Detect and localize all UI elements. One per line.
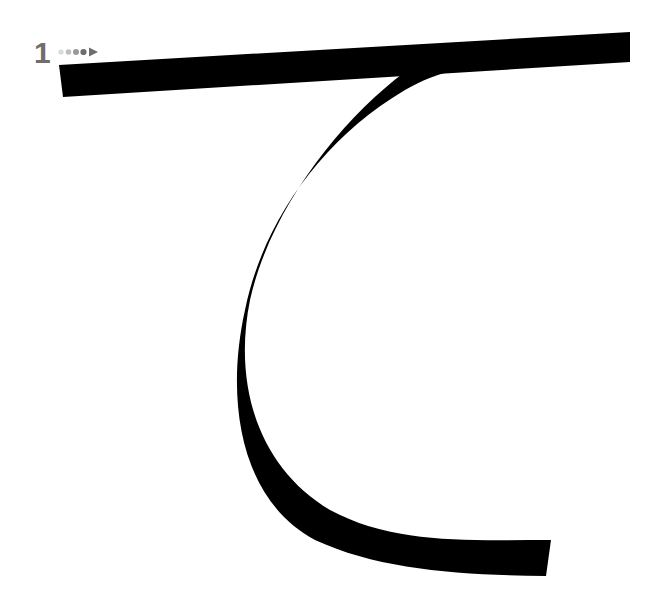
stroke-top-bar <box>59 32 630 97</box>
glyph-te-stroke <box>0 0 659 596</box>
stroke-curve <box>237 62 551 576</box>
